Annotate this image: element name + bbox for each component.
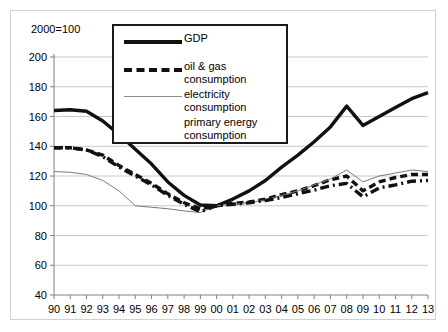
x-tick-label: 90 (48, 303, 60, 315)
x-tick-label: 00 (210, 303, 222, 315)
legend-item-primary-energy: primary energy consumption (114, 116, 286, 141)
series-line (54, 148, 428, 212)
x-tick-label: 13 (422, 303, 434, 315)
legend-swatch-solid-thin (122, 90, 184, 104)
x-tick-label: 11 (390, 303, 401, 315)
chart-frame: 2001801601401201008060409091929394959697… (10, 10, 436, 320)
x-tick-label: 98 (178, 303, 190, 315)
legend-label-primary-energy: primary energy (184, 116, 257, 129)
x-tick-label: 06 (308, 303, 320, 315)
x-tick-label: 02 (243, 303, 255, 315)
x-tick-label: 05 (292, 303, 304, 315)
legend-label-electricity: electricity (184, 88, 246, 101)
y-tick-label: 80 (35, 230, 47, 242)
legend-label-gdp: GDP (184, 32, 208, 45)
y-tick-label: 180 (29, 81, 47, 93)
y-tick-label: 100 (29, 200, 47, 212)
legend-swatch-dashed-thick (122, 62, 184, 76)
x-tick-label: 91 (64, 303, 76, 315)
y-tick-label: 200 (29, 51, 47, 63)
legend-label-oil-gas-line2: consumption (184, 73, 246, 86)
x-tick-label: 04 (276, 303, 288, 315)
x-tick-label: 03 (259, 303, 271, 315)
x-tick-label: 95 (129, 303, 141, 315)
x-tick-label: 01 (227, 303, 239, 315)
legend-item-electricity: electricity consumption (114, 88, 286, 113)
legend-item-gdp: GDP (114, 32, 286, 48)
x-tick-label: 12 (406, 303, 418, 315)
legend-label-electricity-line2: consumption (184, 101, 246, 114)
y-axis-unit-note: 2000=100 (31, 23, 80, 35)
x-tick-label: 96 (145, 303, 157, 315)
y-tick-label: 60 (35, 259, 47, 271)
x-tick-label: 09 (357, 303, 369, 315)
y-tick-label: 160 (29, 111, 47, 123)
x-tick-label: 08 (341, 303, 353, 315)
legend-label-primary-energy-line2: consumption (184, 129, 257, 142)
x-tick-label: 97 (162, 303, 174, 315)
legend-label-oil-gas: oil & gas (184, 60, 246, 73)
x-tick-label: 93 (97, 303, 109, 315)
legend-swatch-solid-thick (122, 34, 184, 48)
x-tick-label: 99 (194, 303, 206, 315)
chart-legend: GDP oil & gas consumption electricity co… (112, 24, 288, 144)
y-tick-label: 140 (29, 140, 47, 152)
x-tick-label: 94 (113, 303, 125, 315)
y-tick-label: 40 (35, 289, 47, 301)
x-tick-label: 07 (324, 303, 336, 315)
x-tick-label: 92 (80, 303, 92, 315)
legend-item-oil-gas: oil & gas consumption (114, 60, 286, 85)
x-tick-label: 10 (373, 303, 385, 315)
legend-swatch-dashdot-thick (122, 118, 184, 132)
y-tick-label: 120 (29, 170, 47, 182)
